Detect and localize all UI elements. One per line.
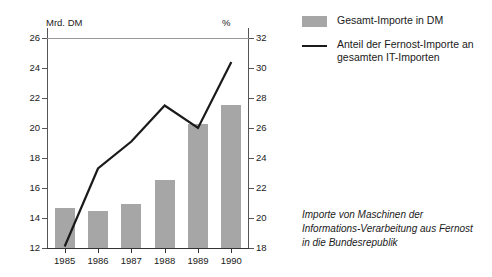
legend-item-bar: Gesamt-Importe in DM <box>302 14 487 28</box>
legend-item-line-label: Anteil der Fernost-Importe an gesamten I… <box>337 38 487 65</box>
chart-legend: Gesamt-Importe in DM Anteil der Fernost-… <box>302 14 487 75</box>
fernost-share-line <box>65 62 232 247</box>
line-swatch-icon <box>302 45 327 47</box>
figure-caption: Importe von Maschinen der Informations-V… <box>302 208 482 250</box>
chart-figure: Mrd. DM % 1214161820222426 1820222426283… <box>0 0 492 277</box>
chart-plot-area: Mrd. DM % 1214161820222426 1820222426283… <box>0 0 284 277</box>
line-series-layer <box>0 0 284 277</box>
legend-item-line: Anteil der Fernost-Importe an gesamten I… <box>302 38 487 65</box>
legend-item-bar-label: Gesamt-Importe in DM <box>337 14 443 28</box>
bar-swatch-icon <box>302 16 327 27</box>
